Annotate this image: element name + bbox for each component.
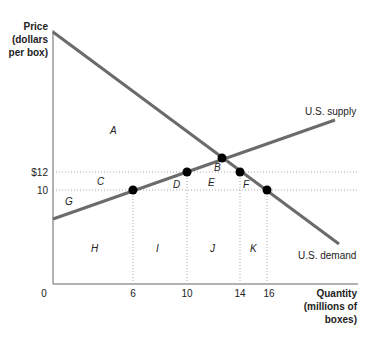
supply-demand-chart: Price (dollars per box) $12 10 0 6 10 14…: [0, 0, 376, 344]
x-tick-14: 14: [234, 288, 246, 299]
area-label-e: E: [208, 177, 215, 188]
y-axis-label-line3: per box): [9, 47, 48, 58]
equilibrium-points: [129, 154, 272, 195]
x-tick-0: 0: [41, 288, 47, 299]
area-label-i: I: [156, 243, 159, 254]
y-axis-label-line1: Price: [24, 21, 49, 32]
y-axis-label-line2: (dollars: [12, 34, 49, 45]
area-label-g: G: [65, 196, 73, 207]
area-label-a: A: [109, 125, 117, 136]
x-tick-6: 6: [130, 288, 136, 299]
area-label-c: C: [97, 176, 105, 187]
y-tick-12: $12: [31, 167, 48, 178]
x-axis-label-line3: boxes): [325, 314, 357, 325]
x-tick-10: 10: [181, 288, 193, 299]
area-label-j: J: [209, 243, 216, 254]
reference-lines: [53, 172, 358, 284]
x-tick-16: 16: [263, 288, 275, 299]
area-label-k: K: [250, 243, 258, 254]
area-label-f: F: [243, 179, 250, 190]
area-label-b: B: [214, 162, 221, 173]
y-tick-10: 10: [37, 185, 49, 196]
supply-label: U.S. supply: [305, 106, 356, 117]
x-axis-label-line1: Quantity: [316, 288, 357, 299]
area-label-d: D: [173, 179, 180, 190]
x-axis-label-line2: (millions of: [304, 301, 358, 312]
demand-curve: [53, 32, 339, 244]
demand-label: U.S. demand: [298, 250, 356, 261]
area-label-h: H: [91, 243, 99, 254]
